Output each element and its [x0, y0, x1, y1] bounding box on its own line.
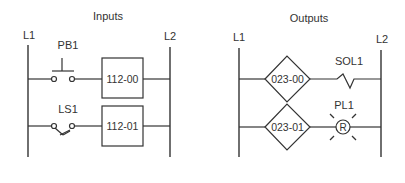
- outputs-section: Outputs L1 L2 023-00 SOL1 023-01 PL1 R: [233, 12, 388, 157]
- input-rung-ls1: LS1 112-01: [28, 103, 170, 146]
- inputs-title: Inputs: [93, 10, 123, 22]
- input-address-112-01: 112-01: [107, 120, 139, 132]
- pl1-label: PL1: [334, 99, 354, 111]
- inputs-l1-label: L1: [23, 29, 35, 41]
- pb1-label: PB1: [58, 39, 79, 51]
- output-address-023-01: 023-01: [271, 121, 304, 133]
- limit-switch-icon: [52, 124, 75, 136]
- output-rung-sol1: 023-00 SOL1: [239, 55, 381, 102]
- outputs-l2-label: L2: [376, 33, 388, 45]
- sol1-label: SOL1: [335, 55, 363, 67]
- inputs-section: Inputs L1 L2 PB1 112-00 LS1: [23, 10, 176, 157]
- outputs-l1-label: L1: [233, 31, 245, 43]
- input-rung-pb1: PB1 112-00: [28, 39, 170, 98]
- ladder-diagram: Inputs L1 L2 PB1 112-00 LS1: [0, 0, 405, 183]
- output-rung-pl1: 023-01 PL1 R: [239, 99, 381, 150]
- output-address-023-00: 023-00: [271, 73, 304, 85]
- pushbutton-icon: [52, 58, 75, 82]
- solenoid-icon: [310, 74, 381, 88]
- lamp-letter: R: [339, 122, 346, 133]
- inputs-l2-label: L2: [164, 30, 176, 42]
- outputs-title: Outputs: [290, 12, 329, 24]
- ls1-label: LS1: [58, 103, 78, 115]
- input-address-112-00: 112-00: [107, 73, 139, 85]
